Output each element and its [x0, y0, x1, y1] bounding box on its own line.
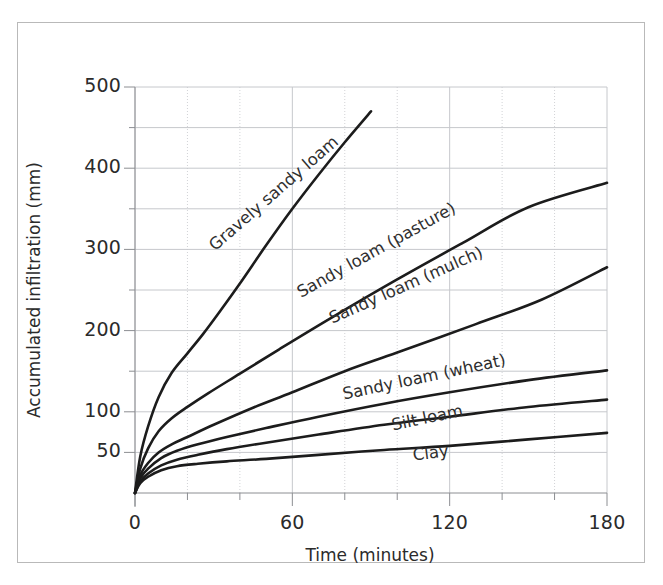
y-tick-label-300: 300 — [55, 236, 121, 258]
y-tick-label-400: 400 — [55, 155, 121, 177]
x-tick-label-120: 120 — [420, 511, 480, 533]
y-tick-label-500: 500 — [55, 74, 121, 96]
infiltration-chart-figure: Accumulated infiltration (mm) Time (minu… — [0, 0, 663, 585]
x-tick-label-60: 60 — [262, 511, 322, 533]
y-tick-label-50: 50 — [55, 439, 121, 461]
x-axis-label: Time (minutes) — [245, 545, 495, 565]
y-axis-label: Accumulated infiltration (mm) — [24, 160, 44, 420]
series-line-1 — [135, 183, 607, 493]
x-tick-label-180: 180 — [577, 511, 637, 533]
y-tick-label-100: 100 — [55, 399, 121, 421]
series-line-4 — [135, 400, 607, 493]
y-tick-label-200: 200 — [55, 318, 121, 340]
x-tick-label-0: 0 — [105, 511, 165, 533]
